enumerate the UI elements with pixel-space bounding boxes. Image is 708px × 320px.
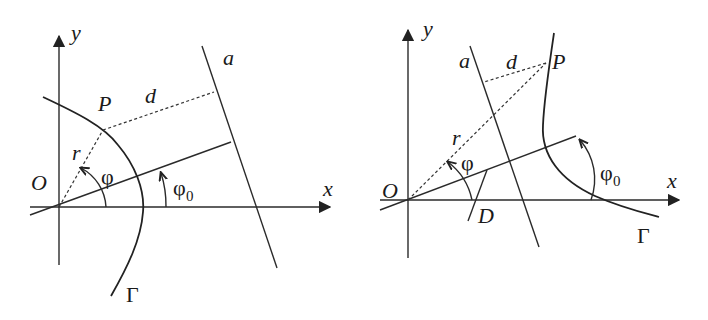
right-diagram: y x O P d r φ φ 0 a D Γ <box>380 16 679 258</box>
left-directrix-line <box>202 46 277 268</box>
left-gamma-label: Γ <box>126 282 139 307</box>
left-origin-label: O <box>31 170 47 195</box>
left-diagram: y x O P d r φ φ 0 a Γ <box>30 20 333 307</box>
right-radius-dashed <box>408 63 546 200</box>
left-phi-label: φ <box>101 164 114 189</box>
right-gamma-label: Γ <box>637 223 650 248</box>
left-y-label: y <box>69 20 81 45</box>
right-a-label: a <box>459 48 470 73</box>
left-point-label: P <box>97 91 111 116</box>
right-r-label: r <box>452 125 461 150</box>
right-y-label: y <box>421 16 433 41</box>
left-angle-phi0-arc <box>161 173 166 207</box>
right-phi0-subscript: 0 <box>613 173 621 189</box>
left-x-label: x <box>322 176 333 201</box>
right-phi0-label: φ <box>600 160 613 185</box>
right-x-label: x <box>666 168 677 193</box>
left-distance-dashed <box>103 92 214 130</box>
left-r-label: r <box>72 140 81 165</box>
left-phi0-subscript: 0 <box>186 188 194 204</box>
left-phi0-label: φ <box>173 175 186 200</box>
right-origin-label: O <box>382 178 398 203</box>
left-curve-gamma <box>43 97 143 296</box>
left-focal-axis-line <box>30 142 231 215</box>
right-d-point-label: D <box>477 203 494 228</box>
right-angle-phi0-arc <box>580 140 595 200</box>
right-point-label: P <box>551 49 565 74</box>
right-phi-label: φ <box>461 150 474 175</box>
left-a-label: a <box>223 45 234 70</box>
left-d-label: d <box>145 83 157 108</box>
right-d-label: d <box>506 49 518 74</box>
conic-sections-figure: y x O P d r φ φ 0 a Γ y x O <box>0 0 708 320</box>
